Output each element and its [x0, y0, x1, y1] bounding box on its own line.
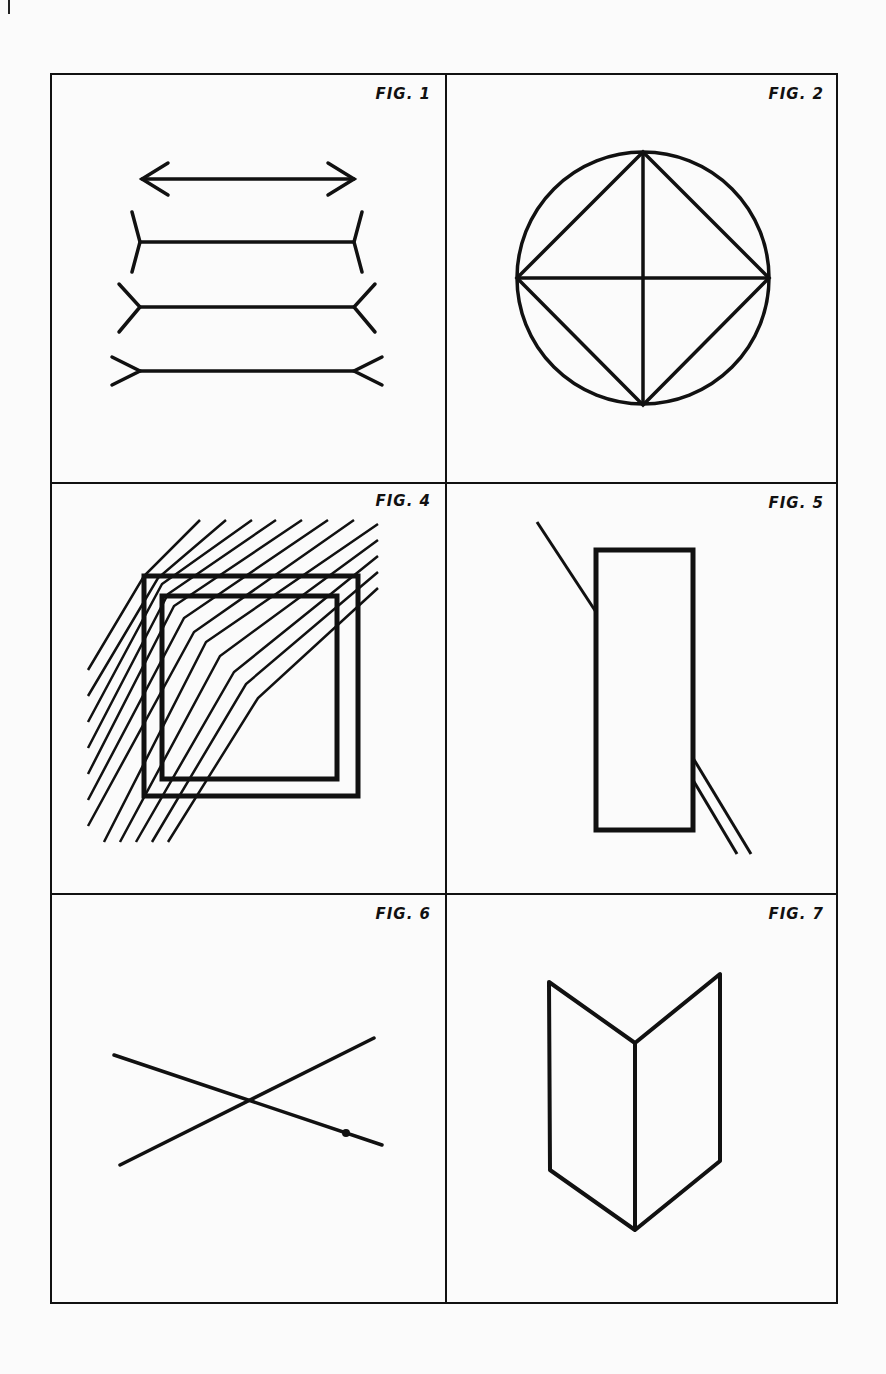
circle-diamond-illustration: [447, 75, 838, 482]
figure-grid: FIG. 1 FIG. 2: [50, 73, 838, 1304]
figure-6-panel: FIG. 6: [52, 895, 445, 1304]
figure-4-panel: FIG. 4: [52, 484, 445, 893]
page-edge-mark: [8, 0, 10, 14]
poggendorff-illustration: [447, 484, 838, 893]
folded-card-illustration: [447, 895, 838, 1304]
figure-1-panel: FIG. 1: [52, 75, 445, 482]
figure-2-panel: FIG. 2: [447, 75, 838, 482]
figure-5-panel: FIG. 5: [447, 484, 838, 893]
hatched-squares-illustration: [52, 484, 445, 893]
figure-7-panel: FIG. 7: [447, 895, 838, 1304]
muller-lyer-illustration: [52, 75, 445, 482]
line-end-dot: [342, 1129, 350, 1137]
crossing-lines-illustration: [52, 895, 445, 1304]
